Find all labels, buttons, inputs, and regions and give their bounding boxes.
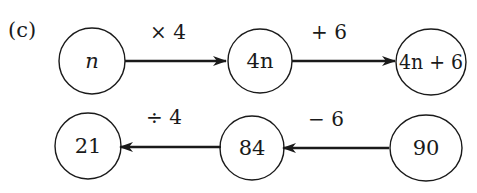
- node-label: 4n: [247, 49, 274, 73]
- operation-label: − 6: [308, 107, 344, 131]
- node-90: 90: [390, 115, 462, 181]
- node-label: 21: [75, 134, 102, 158]
- operation-label: × 4: [150, 20, 186, 44]
- node-label: n: [85, 49, 99, 73]
- top-row: n × 4 4n + 6 4n + 6: [59, 20, 466, 95]
- node-84: 84: [220, 116, 284, 180]
- node-21: 21: [55, 113, 121, 179]
- operation-plus-6: + 6: [292, 20, 395, 61]
- function-machine-diagram: (c) n × 4 4n + 6 4n + 6: [0, 0, 477, 193]
- node-label: 90: [413, 136, 440, 160]
- bottom-row: 21 ÷ 4 84 − 6 90: [55, 105, 462, 181]
- operation-label: + 6: [311, 20, 347, 44]
- node-label: 84: [239, 136, 266, 160]
- operation-times-4: × 4: [125, 20, 226, 61]
- operation-minus-6: − 6: [283, 107, 389, 148]
- part-label: (c): [8, 18, 36, 42]
- node-n: n: [59, 28, 125, 94]
- node-4n: 4n: [228, 29, 292, 93]
- operation-divide-4: ÷ 4: [120, 105, 221, 147]
- node-label: 4n + 6: [399, 50, 463, 74]
- node-4n-plus-6: 4n + 6: [396, 29, 466, 95]
- operation-label: ÷ 4: [146, 105, 182, 129]
